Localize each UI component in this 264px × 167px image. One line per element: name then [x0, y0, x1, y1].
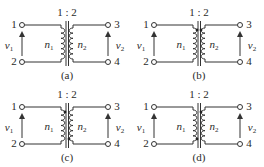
terminal-3-circle — [238, 105, 243, 110]
v1-label: v1 — [137, 121, 146, 135]
n2-label: n2 — [210, 120, 220, 134]
terminal-3-label: 3 — [114, 18, 120, 30]
terminal-4-circle — [238, 142, 243, 147]
terminal-4-circle — [106, 142, 111, 147]
terminal-1-label: 1 — [11, 18, 17, 30]
terminal-3-label: 3 — [246, 100, 252, 112]
secondary-coil — [201, 28, 205, 59]
terminal-3-circle — [106, 23, 111, 28]
secondary-coil — [201, 110, 205, 141]
terminal-1-circle — [20, 105, 25, 110]
secondary-polarity-dot-icon — [200, 29, 203, 32]
terminal-1-circle — [20, 23, 25, 28]
primary-coil — [193, 110, 197, 141]
terminal-2-label: 2 — [11, 137, 17, 149]
panel-caption: (a) — [61, 69, 74, 82]
terminal-1-circle — [152, 23, 157, 28]
primary-polarity-dot-icon — [196, 29, 199, 32]
secondary-polarity-dot-icon — [68, 138, 71, 141]
terminal-1-label: 1 — [143, 18, 149, 30]
secondary-coil — [69, 110, 73, 141]
panel-c: 1 : 21234v1v2n1n2(c) — [5, 88, 125, 164]
panel-b: 1 : 21234v1v2n1n2(b) — [137, 6, 257, 82]
v1-label: v1 — [5, 39, 14, 53]
n2-label: n2 — [210, 38, 220, 52]
primary-polarity-dot-icon — [64, 111, 67, 114]
secondary-coil — [69, 28, 73, 59]
terminal-4-label: 4 — [246, 55, 252, 67]
primary-polarity-dot-icon — [196, 138, 199, 141]
terminal-3-label: 3 — [246, 18, 252, 30]
terminal-2-circle — [20, 60, 25, 65]
terminal-3-circle — [238, 23, 243, 28]
terminal-4-label: 4 — [246, 137, 252, 149]
v2-label: v2 — [248, 39, 257, 53]
n1-label: n1 — [45, 38, 55, 52]
primary-coil — [61, 28, 65, 59]
n2-label: n2 — [78, 38, 88, 52]
terminal-3-circle — [106, 105, 111, 110]
turns-ratio-label: 1 : 2 — [189, 88, 209, 100]
terminal-2-label: 2 — [143, 55, 149, 67]
turns-ratio-label: 1 : 2 — [189, 6, 209, 18]
primary-coil — [61, 110, 65, 141]
v2-label: v2 — [116, 121, 125, 135]
panel-d: 1 : 21234v1v2n1n2(d) — [137, 88, 257, 164]
n1-label: n1 — [45, 120, 55, 134]
v1-label: v1 — [5, 121, 14, 135]
terminal-1-label: 1 — [11, 100, 17, 112]
v1-label: v1 — [137, 39, 146, 53]
panel-a: 1 : 21234v1v2n1n2(a) — [5, 6, 125, 82]
turns-ratio-label: 1 : 2 — [57, 6, 77, 18]
terminal-1-circle — [152, 105, 157, 110]
panel-caption: (b) — [193, 69, 206, 82]
terminal-1-label: 1 — [143, 100, 149, 112]
v2-label: v2 — [248, 121, 257, 135]
transformer-diagram: 1 : 21234v1v2n1n2(a) 1 : 21234v1v2n1n2(b… — [0, 0, 264, 167]
terminal-4-label: 4 — [114, 55, 120, 67]
n2-label: n2 — [78, 120, 88, 134]
panel-caption: (d) — [193, 151, 206, 164]
primary-coil — [193, 28, 197, 59]
terminal-2-label: 2 — [143, 137, 149, 149]
terminal-4-label: 4 — [114, 137, 120, 149]
v2-label: v2 — [116, 39, 125, 53]
terminal-2-circle — [20, 142, 25, 147]
terminal-4-circle — [238, 60, 243, 65]
n1-label: n1 — [177, 120, 187, 134]
panel-caption: (c) — [61, 151, 74, 164]
terminal-2-circle — [152, 142, 157, 147]
terminal-4-circle — [106, 60, 111, 65]
turns-ratio-label: 1 : 2 — [57, 88, 77, 100]
terminal-2-circle — [152, 60, 157, 65]
n1-label: n1 — [177, 38, 187, 52]
terminal-2-label: 2 — [11, 55, 17, 67]
secondary-polarity-dot-icon — [200, 111, 203, 114]
terminal-3-label: 3 — [114, 100, 120, 112]
